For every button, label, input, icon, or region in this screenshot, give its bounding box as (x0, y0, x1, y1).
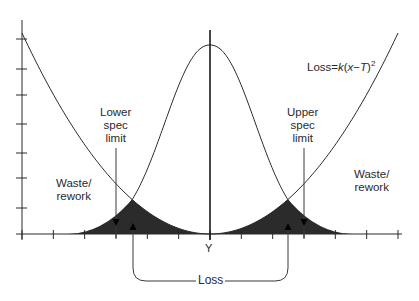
formula-equals: = (331, 61, 338, 73)
loss-label: Loss (198, 274, 223, 287)
waste-rework-right-label: Waste/ rework (354, 168, 389, 194)
target-label: Y (205, 242, 212, 255)
waste-rework-left-label: Waste/ rework (56, 177, 91, 203)
waste-left-line2: rework (56, 190, 91, 203)
lower-spec-line1: Lower (100, 106, 131, 119)
waste-left-line1: Waste/ (56, 177, 91, 190)
upper-spec-line2: spec (287, 119, 318, 132)
axes (16, 20, 402, 240)
waste-right-line2: rework (354, 181, 389, 194)
lower-spec-limit-label: Lower spec limit (100, 106, 131, 145)
loss-formula: Loss=k(x−T)2 (307, 57, 375, 74)
waste-right-line1: Waste/ (354, 168, 389, 181)
upper-spec-line3: limit (287, 132, 318, 145)
upper-spec-line1: Upper (287, 106, 318, 119)
lower-spec-line3: limit (100, 132, 131, 145)
formula-loss-text: Loss (307, 61, 331, 73)
loss-function-diagram (0, 0, 419, 301)
upper-spec-limit-label: Upper spec limit (287, 106, 318, 145)
lower-spec-line2: spec (100, 119, 131, 132)
formula-exponent: 2 (371, 59, 375, 68)
